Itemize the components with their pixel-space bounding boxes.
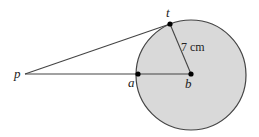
label-b: b	[185, 76, 192, 91]
label-a: a	[128, 75, 135, 90]
tangent-circle-diagram: p a b t 7 cm	[0, 0, 259, 137]
point-t	[167, 21, 172, 26]
point-a	[135, 71, 140, 76]
radius-length-label: 7 cm	[181, 40, 205, 54]
label-t: t	[166, 5, 170, 20]
label-p: p	[13, 66, 21, 81]
